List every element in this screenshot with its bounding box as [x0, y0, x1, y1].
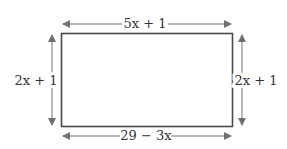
top-dimension: 5x + 1 [63, 16, 231, 31]
left-dimension: 2x + 1 [14, 35, 57, 125]
bottom-dimension: 29 − 3x [63, 128, 231, 143]
left-label: 2x + 1 [14, 73, 57, 88]
right-label: 2x + 1 [234, 73, 277, 88]
rectangle-diagram: 5x + 1 29 − 3x 2x + 1 2x + 1 [0, 0, 287, 149]
right-dimension: 2x + 1 [234, 35, 277, 125]
bottom-label: 29 − 3x [120, 128, 172, 143]
rectangle [62, 34, 233, 127]
top-label: 5x + 1 [123, 16, 166, 31]
